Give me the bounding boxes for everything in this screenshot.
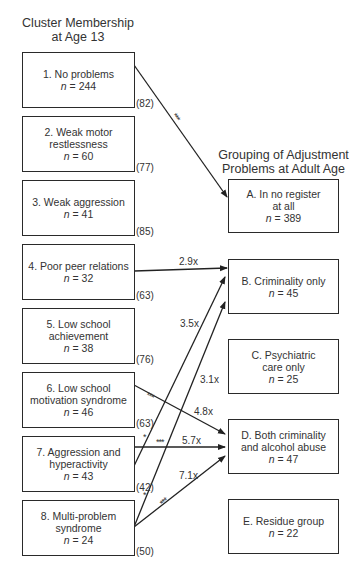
cluster-label: 4. Poor peer relations [28,260,128,272]
cluster-box-6: 6. Low school motivation syndrome n = 46 [22,372,135,428]
link-7-D-sig: *** [156,437,164,447]
outcome-box-B: B. Criminality only n = 45 [228,259,339,314]
cluster-box-8: 8. Multi-problem syndrome n = 24 [22,500,135,556]
cluster-label: 8. Multi-problem [41,510,116,522]
outcome-label-2: at all [272,200,294,212]
link-8-B-label: 3.1x [200,374,219,385]
cluster-label-2: syndrome [55,522,101,534]
cluster-n: n = 43 [64,470,94,482]
link-7-B-sig: * [143,432,146,442]
cluster-label: 3. Weak aggression [32,196,125,208]
link-7-B-label: 3.5x [180,318,199,329]
outcome-label: C. Psychiatric [251,349,315,361]
outcome-n: n = 25 [269,373,299,385]
cluster-n: n = 24 [64,534,94,546]
link-8-D-label: 7.1x [179,470,198,481]
cluster-box-3: 3. Weak aggression n = 41 [22,180,135,236]
link-8-B-sig: * [143,490,146,500]
cluster-n: n = 60 [64,150,94,162]
cluster-label: 6. Low school [46,382,110,394]
cluster-label-2: achievement [49,330,109,342]
outcome-n: n = 22 [269,527,299,539]
cluster-label: 1. No problems [43,68,114,80]
outcome-box-E: E. Residue group n = 22 [228,499,339,554]
cluster-box-4: 4. Poor peer relations n = 32 [22,244,135,300]
cluster-n: n = 38 [64,342,94,354]
cluster-pct-6: (63) [136,418,154,429]
cluster-pct-1: (82) [136,98,154,109]
cluster-box-2: 2. Weak motor restlessness n = 60 [22,116,135,172]
link-4-B-label: 2.9x [179,256,198,267]
outcome-label: E. Residue group [243,515,324,527]
cluster-box-1: 1. No problems n = 244 [22,52,135,108]
link-6-D-label: 4.8x [194,406,213,417]
link-7-D-label: 5.7x [182,435,201,446]
outcome-label: A. In no register [246,188,320,200]
cluster-label: 5. Low school [46,318,110,330]
outcome-n: n = 47 [269,453,299,465]
cluster-n: n = 41 [64,208,94,220]
cluster-box-7: 7. Aggression and hyperactivity n = 43 [22,436,135,492]
cluster-label-2: motivation syndrome [30,394,127,406]
outcome-box-A: A. In no register at all n = 389 [228,179,339,233]
cluster-pct-2: (77) [136,162,154,173]
cluster-pct-3: (85) [136,226,154,237]
outcome-label: B. Criminality only [241,275,325,287]
cluster-label: 7. Aggression and [36,446,120,458]
outcome-label-2: care only [262,361,305,373]
cluster-n: n = 32 [64,272,94,284]
cluster-n: n = 244 [61,80,96,92]
cluster-box-5: 5. Low school achievement n = 38 [22,308,135,364]
cluster-label-2: restlessness [49,138,107,150]
outcome-label: D. Both criminality [241,429,326,441]
link-4-B [134,268,227,271]
cluster-pct-4: (63) [136,290,154,301]
cluster-label-2: hyperactivity [49,458,107,470]
cluster-label: 2. Weak motor [44,126,112,138]
outcome-n: n = 389 [266,212,301,224]
link-1-A [134,65,227,197]
outcome-n: n = 45 [269,287,299,299]
cluster-pct-5: (76) [136,354,154,365]
outcome-box-D: D. Both criminality and alcohol abuse n … [228,419,339,474]
outcome-box-C: C. Psychiatric care only n = 25 [228,339,339,394]
cluster-pct-8: (50) [136,546,154,557]
link-7-B [134,277,225,466]
outcome-label-2: and alcohol abuse [241,441,326,453]
cluster-n: n = 46 [64,406,94,418]
